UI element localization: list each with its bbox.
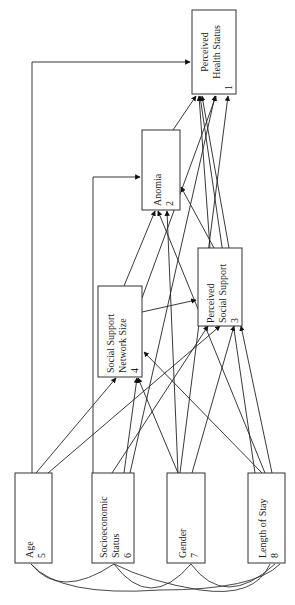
path-diagram: Perceived Health Status 1 Anomia 2 Perce… (0, 0, 295, 605)
node-number: 1 (223, 85, 234, 90)
node-age: Age 5 (15, 473, 52, 563)
edge-length-to-pss (241, 326, 272, 473)
edge-pss-to-health (199, 96, 210, 248)
arc-ses-length (114, 564, 270, 592)
node-label: Gender (177, 528, 188, 558)
node-number: 4 (129, 368, 140, 373)
node-number: 5 (36, 553, 47, 558)
node-label: Perceived (205, 284, 216, 323)
node-perceived-social-support: Perceived Social Support 3 (198, 248, 242, 326)
node-number: 7 (189, 553, 200, 558)
node-label: Perceived (199, 32, 210, 71)
node-label: Socioeconomic (98, 496, 109, 558)
arc-age-length (31, 564, 280, 591)
node-perceived-health-status: Perceived Health Status 1 (192, 10, 236, 94)
edge-anomia-to-health (173, 96, 196, 130)
edge-age-to-health (32, 62, 190, 473)
node-label: Network Size (117, 318, 128, 373)
node-anomia: Anomia 2 (142, 130, 180, 210)
node-label: Health Status (211, 25, 222, 79)
node-number: 2 (164, 201, 175, 206)
arc-ses-gender (114, 564, 191, 588)
node-gender: Gender 7 (167, 473, 205, 563)
node-label: Age (24, 541, 35, 558)
node-label: Social Support (217, 264, 228, 323)
arc-age-ses (31, 564, 114, 582)
edge-pss-to-anomia (181, 187, 214, 248)
node-label: Status (110, 533, 121, 558)
edge-gender-to-ssns (138, 378, 178, 473)
node-label: Length of Stay (257, 499, 268, 558)
node-label: Social Support (105, 314, 116, 373)
node-socioeconomic-status: Socioeconomic Status 6 (92, 473, 134, 563)
node-label: Anomia (152, 173, 163, 206)
edge-gender-to-anomia (167, 211, 178, 473)
node-social-support-network-size: Social Support Network Size 4 (98, 286, 142, 377)
edge-ses-to-ssns (124, 378, 137, 473)
edge-gender-to-pss (192, 326, 234, 473)
node-number: 3 (229, 318, 240, 323)
correlation-arcs (31, 564, 280, 592)
edge-length-to-ssns (144, 352, 262, 473)
node-number: 8 (269, 553, 280, 558)
node-length-of-stay: Length of Stay 8 (248, 473, 285, 563)
node-number: 6 (122, 553, 133, 558)
